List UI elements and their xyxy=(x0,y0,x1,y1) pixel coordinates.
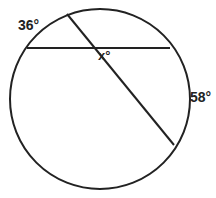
arc-label-36: 36° xyxy=(18,18,39,32)
diagonal-chord xyxy=(67,14,174,145)
angle-label-x: x° xyxy=(98,49,110,62)
arc-label-58: 58° xyxy=(190,90,211,104)
circle xyxy=(10,9,190,189)
